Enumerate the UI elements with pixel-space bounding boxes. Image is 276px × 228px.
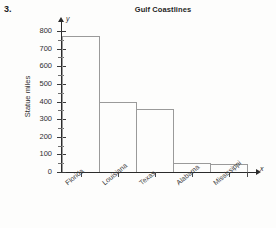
y-tick-major [57,172,66,173]
chart-title: Gulf Coastlines [98,5,228,14]
y-tick-label: 0 [18,167,52,176]
y-tick-label: 600 [18,61,52,70]
y-tick-label: 800 [18,26,52,35]
bar-texas [136,109,174,172]
y-tick-major [57,31,66,32]
y-tick-label: 200 [18,132,52,141]
worksheet-page: 3. Gulf Coastlines Statue miles y x 0100… [0,0,276,228]
y-tick-label: 700 [18,44,52,53]
bar-louisiana [99,102,137,172]
bar-florida [62,36,100,172]
y-tick-label: 500 [18,79,52,88]
y-axis-arrow-icon [58,17,64,22]
y-tick-label: 100 [18,149,52,158]
x-axis-symbol: x [260,165,264,172]
y-tick-label: 400 [18,97,52,106]
x-tick [247,172,248,177]
y-axis-symbol: y [66,15,70,22]
y-tick-label: 300 [18,114,52,123]
problem-number: 3. [4,4,12,14]
